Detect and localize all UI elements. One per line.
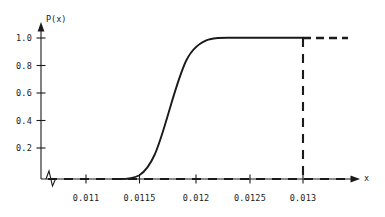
chart-plot-area (0, 0, 385, 217)
x-axis-ticks (86, 170, 303, 184)
y-tick-label-0.2: 0.2 (8, 144, 32, 153)
x-axis-arrowhead (351, 176, 361, 183)
y-axis-arrowhead (38, 22, 45, 32)
x-tick-label-0.011: 0.011 (73, 194, 100, 203)
chart-figure: P(x) x 1.0 0.8 0.6 0.4 0.2 0.011 0.0115 … (0, 0, 385, 217)
x-tick-label-0.012: 0.012 (183, 194, 210, 203)
x-tick-label-0.0125: 0.0125 (234, 194, 266, 203)
x-tick-label-0.0115: 0.0115 (124, 194, 156, 203)
series-cdf-curve (120, 38, 303, 179)
y-tick-label-1.0: 1.0 (8, 34, 32, 43)
x-tick-label-0.013: 0.013 (290, 194, 317, 203)
x-axis-title: x (364, 174, 369, 183)
y-tick-label-0.8: 0.8 (8, 61, 32, 70)
y-axis-title: P(x) (46, 15, 66, 24)
y-tick-label-0.4: 0.4 (8, 116, 32, 125)
y-tick-label-0.6: 0.6 (8, 89, 32, 98)
